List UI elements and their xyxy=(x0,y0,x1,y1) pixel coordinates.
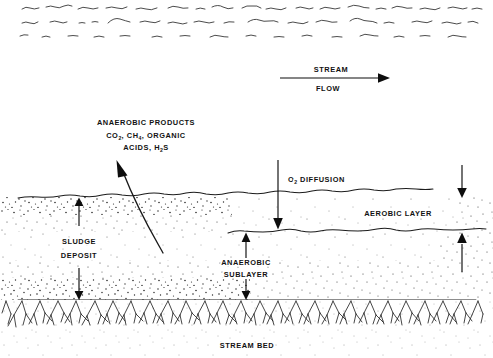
stream-bed-label: STREAM BED xyxy=(220,341,274,350)
anaerobic-sublayer-label-line2: SUBLAYER xyxy=(224,270,268,279)
aerobic-layer-label: AEROBIC LAYER xyxy=(364,209,432,218)
stream-flow-label-bottom: FLOW xyxy=(316,84,340,93)
stream-flow-label-top: STREAM xyxy=(314,65,349,74)
acids-text: ACIDS, H xyxy=(123,143,160,152)
aerobic-layer-stipple xyxy=(232,197,493,231)
ch4-formula-prefix: , CH xyxy=(122,131,139,140)
o2-diffusion-arrow xyxy=(273,160,283,230)
anaerobic-products-line3: ACIDS, H2S xyxy=(123,143,169,153)
sludge-top-boundary xyxy=(18,189,433,199)
stream-flow-arrow xyxy=(280,73,390,83)
sludge-deposit-label-line1: SLUDGE xyxy=(62,237,96,246)
anaerobic-products-line1: ANAEROBIC PRODUCTS xyxy=(97,118,195,127)
o2-diffusion-label: O2 DIFFUSION xyxy=(288,175,345,185)
anaerobic-sublayer-label-line1: ANAEROBIC xyxy=(221,258,271,267)
anaerobic-products-line2: CO2, CH4, ORGANIC xyxy=(106,131,186,141)
organic-text: , ORGANIC xyxy=(142,131,186,140)
water-surface-waves xyxy=(20,5,482,37)
co2-formula-prefix: CO xyxy=(106,131,118,140)
stream-sediment-diagram: STREAM FLOW ANAEROBIC PRODUCTS CO2, CH4,… xyxy=(0,0,493,358)
diagram-canvas: STREAM FLOW ANAEROBIC PRODUCTS CO2, CH4,… xyxy=(0,0,493,358)
h2s-suffix: S xyxy=(163,143,168,152)
o2-diffusion-suffix: DIFFUSION xyxy=(298,175,345,184)
right-top-down-arrow xyxy=(457,165,467,198)
sludge-deposit-label-line2: DEPOSIT xyxy=(61,251,97,260)
sludge-upper-stipple xyxy=(0,197,232,231)
